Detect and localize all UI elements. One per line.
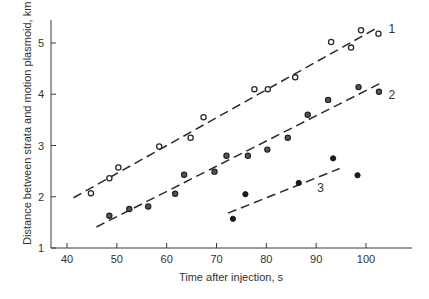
series-label-1: 1 — [388, 22, 395, 36]
data-point — [285, 135, 290, 140]
x-axis-title: Time after injection, s — [179, 271, 284, 283]
x-tick-label: 90 — [310, 253, 322, 265]
data-point — [305, 112, 310, 117]
x-tick-label: 100 — [357, 253, 375, 265]
data-point — [376, 89, 381, 94]
data-point — [116, 165, 121, 170]
data-point — [329, 39, 334, 44]
x-tick-label: 40 — [61, 253, 73, 265]
axes: 405060708090100 12345 Time after injecti… — [21, 2, 412, 283]
series-label-3: 3 — [317, 181, 324, 195]
data-point — [243, 192, 248, 197]
data-point — [296, 180, 301, 185]
data-point — [157, 144, 162, 149]
x-ticks: 405060708090100 — [61, 243, 375, 265]
series-1: 1 — [73, 22, 395, 198]
x-tick-label: 50 — [111, 253, 123, 265]
data-point — [293, 75, 298, 80]
data-point — [188, 135, 193, 140]
y-ticks: 12345 — [38, 37, 56, 254]
data-point — [230, 216, 235, 221]
y-tick-label: 4 — [38, 88, 44, 100]
data-point — [355, 173, 360, 178]
data-point — [348, 45, 353, 50]
scatter-chart: 405060708090100 12345 Time after injecti… — [0, 0, 429, 299]
data-point — [356, 84, 361, 89]
series-label-2: 2 — [388, 88, 395, 102]
y-tick-label: 3 — [38, 140, 44, 152]
data-point — [182, 172, 187, 177]
data-point — [146, 204, 151, 209]
x-tick-label: 70 — [210, 253, 222, 265]
data-point — [265, 147, 270, 152]
data-point — [107, 176, 112, 181]
data-point — [331, 156, 336, 161]
plot-area: 123 — [73, 22, 395, 227]
y-tick-label: 5 — [38, 37, 44, 49]
x-tick-label: 60 — [161, 253, 173, 265]
data-point — [252, 87, 257, 92]
data-point — [201, 115, 206, 120]
y-tick-label: 2 — [38, 191, 44, 203]
data-point — [127, 206, 132, 211]
y-tick-label: 1 — [38, 242, 44, 254]
x-tick-label: 80 — [260, 253, 272, 265]
data-point — [326, 97, 331, 102]
data-point — [107, 213, 112, 218]
data-point — [224, 153, 229, 158]
data-point — [265, 87, 270, 92]
data-point — [376, 31, 381, 36]
data-point — [173, 191, 178, 196]
series-3: 3 — [228, 156, 360, 222]
data-point — [88, 191, 93, 196]
data-point — [358, 28, 363, 33]
data-point — [212, 169, 217, 174]
y-axis-title: Distance between strata and motion plasm… — [21, 2, 33, 245]
fit-line-1 — [73, 28, 377, 198]
data-point — [245, 153, 250, 158]
